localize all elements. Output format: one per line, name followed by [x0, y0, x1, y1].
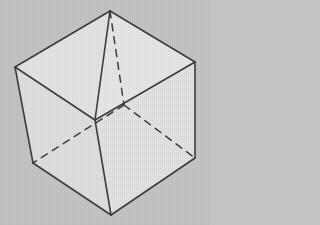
cube-figure — [0, 0, 210, 225]
figure-canvas — [0, 0, 210, 225]
